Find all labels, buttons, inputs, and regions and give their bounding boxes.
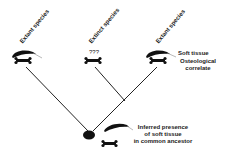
middle-bone-icon [84,57,101,64]
left-soft-tissue-icon [12,51,42,58]
right-soft-tissue-icon [146,51,176,58]
branch-right [93,67,157,131]
ancestor-annotation-line1: Inferred presence [128,124,198,131]
branch-left [26,67,88,131]
osteological-label-line2: correlate [176,65,220,72]
soft-tissue-label: Soft tissue [178,50,209,57]
right-bone-icon [149,57,166,64]
left-bone-icon [14,57,31,64]
osteological-label-line1: Osteological [176,58,220,65]
ancestor-bone-icon [101,140,117,147]
ancestor-annotation-line3: in common ancestor [128,138,198,145]
ancestor-annotation-line2: of soft tissue [128,131,198,138]
common-ancestor-node-icon [83,131,95,140]
ancestor-annotation: Inferred presence of soft tissue in comm… [128,124,198,145]
branch-middle [95,67,125,101]
unknown-soft-tissue-marker: ??? [89,49,99,56]
osteological-correlate-label: Osteological correlate [176,58,220,72]
tree-branches [26,67,157,131]
